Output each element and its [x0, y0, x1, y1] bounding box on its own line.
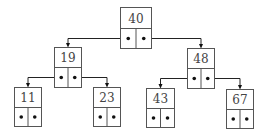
- right-pointer-dot-icon: [112, 115, 116, 119]
- edge-40-48: [144, 39, 203, 49]
- arrowhead-icon: [66, 43, 70, 48]
- node-value: 48: [193, 52, 208, 66]
- arrowhead-icon: [159, 84, 163, 89]
- node-value: 67: [232, 93, 247, 107]
- arrowhead-icon: [199, 44, 203, 49]
- node-value: 40: [128, 12, 143, 26]
- nodes: 40194811234367: [15, 8, 254, 129]
- right-pointer-dot-icon: [206, 77, 210, 81]
- left-pointer-dot-icon: [59, 76, 63, 80]
- node-value: 23: [99, 91, 114, 105]
- arrowhead-icon: [26, 83, 30, 88]
- tree-node-43: 43: [147, 89, 175, 128]
- right-pointer-dot-icon: [142, 37, 146, 41]
- left-pointer-dot-icon: [152, 116, 156, 120]
- node-value: 11: [20, 91, 35, 105]
- edge-line: [68, 39, 128, 45]
- arrowhead-icon: [105, 83, 109, 88]
- left-pointer-dot-icon: [126, 37, 130, 41]
- node-value: 19: [60, 51, 75, 65]
- edge-40-19: [66, 39, 128, 48]
- left-pointer-dot-icon: [98, 115, 102, 119]
- tree-node-11: 11: [15, 88, 42, 127]
- tree-diagram: 40194811234367: [0, 0, 267, 139]
- arrowhead-icon: [238, 85, 242, 90]
- right-pointer-dot-icon: [166, 116, 170, 120]
- right-pointer-dot-icon: [73, 76, 77, 80]
- edge-line: [144, 39, 201, 46]
- node-value: 43: [153, 92, 168, 106]
- tree-node-19: 19: [55, 48, 82, 88]
- left-pointer-dot-icon: [192, 77, 196, 81]
- left-pointer-dot-icon: [19, 115, 23, 119]
- tree-node-40: 40: [121, 8, 152, 49]
- tree-node-48: 48: [188, 49, 215, 89]
- right-pointer-dot-icon: [245, 117, 249, 121]
- right-pointer-dot-icon: [33, 115, 37, 119]
- left-pointer-dot-icon: [231, 117, 235, 121]
- tree-node-67: 67: [227, 90, 254, 129]
- tree-node-23: 23: [94, 88, 121, 127]
